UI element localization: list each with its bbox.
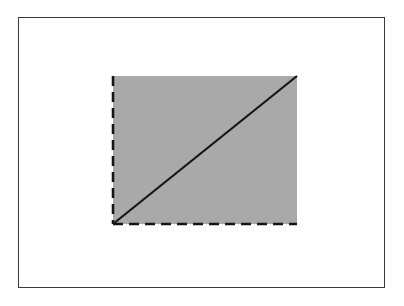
diagram-svg (0, 0, 404, 306)
figure-canvas (0, 0, 404, 306)
